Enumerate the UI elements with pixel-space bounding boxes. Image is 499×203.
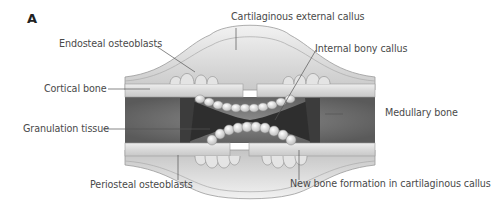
label-endosteal-osteoblasts: Endosteal osteoblasts xyxy=(59,38,162,49)
label-internal-bony-callus: Internal bony callus xyxy=(315,43,407,54)
label-cortical-bone: Cortical bone xyxy=(44,83,106,94)
label-granulation-tissue: Granulation tissue xyxy=(23,123,109,134)
label-new-bone-formation: New bone formation in cartilaginous call… xyxy=(290,178,491,189)
cortical-bone-lower xyxy=(125,143,375,156)
label-periosteal-osteoblasts: Periosteal osteoblasts xyxy=(90,179,193,190)
label-medullary-bone: Medullary bone xyxy=(385,107,458,118)
label-cartilaginous-external-callus: Cartilaginous external callus xyxy=(231,11,365,22)
fracture-callus-illustration xyxy=(0,0,499,203)
